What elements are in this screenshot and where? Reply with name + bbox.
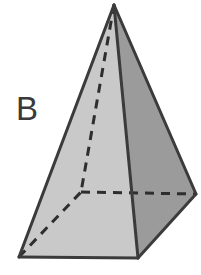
figure-canvas: B bbox=[0, 0, 201, 275]
figure-label: B bbox=[16, 92, 38, 125]
square-pyramid-figure bbox=[0, 0, 201, 275]
edge-base-left-to-base-front bbox=[19, 257, 138, 258]
